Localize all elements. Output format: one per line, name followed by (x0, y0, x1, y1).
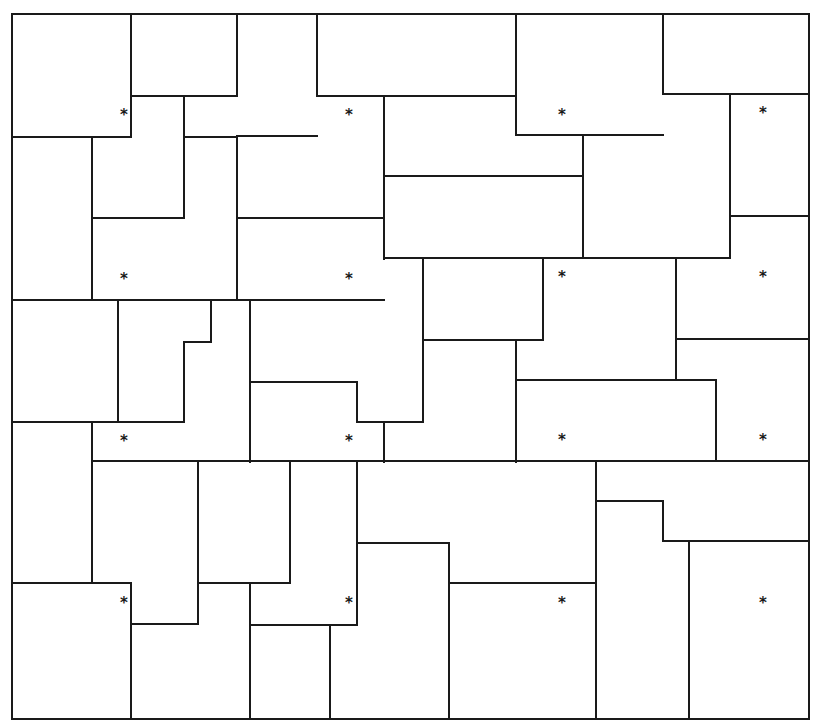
asterisk-marker: * (120, 596, 128, 611)
asterisk-marker: * (120, 434, 128, 449)
asterisk-marker: * (345, 596, 353, 611)
tile-boundaries (12, 14, 809, 719)
asterisk-marker: * (558, 108, 566, 123)
asterisk-marker: * (345, 434, 353, 449)
asterisk-marker: * (759, 270, 767, 285)
asterisk-marker: * (345, 272, 353, 287)
asterisk-marker: * (558, 596, 566, 611)
asterisk-marker: * (558, 433, 566, 448)
asterisk-marker: * (345, 108, 353, 123)
asterisk-marker: * (558, 270, 566, 285)
asterisk-marker: * (759, 596, 767, 611)
asterisk-marker: * (759, 106, 767, 121)
asterisk-marker: * (120, 272, 128, 287)
asterisk-marker: * (120, 108, 128, 123)
asterisk-marker: * (759, 433, 767, 448)
